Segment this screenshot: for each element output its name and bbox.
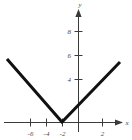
x-axis-label: x: [124, 119, 129, 127]
y-tick-label: 6: [68, 52, 72, 60]
x-tick-label: 2: [101, 130, 105, 138]
absolute-value-curve: [7, 59, 120, 122]
y-axis-label: y: [77, 1, 82, 9]
coordinate-plane-plot: -6 -4 -2 2 8 6 4 x y: [0, 0, 132, 140]
x-tick-label: -6: [28, 130, 34, 138]
y-axis-arrow-icon: [75, 9, 81, 17]
x-tick-label: -4: [44, 130, 50, 138]
x-tick-label: -2: [60, 130, 66, 138]
x-axis-arrow-icon: [115, 119, 123, 125]
y-tick-label: 4: [68, 76, 72, 84]
y-tick-label: 8: [68, 28, 72, 36]
graph-figure: -6 -4 -2 2 8 6 4 x y: [0, 0, 132, 140]
